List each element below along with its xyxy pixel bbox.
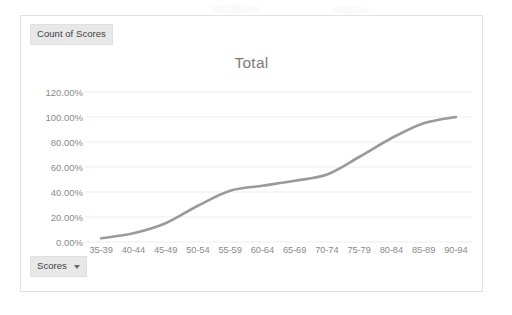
x-axis-tick-label: 60-64 [246,245,278,261]
x-axis-tick-label: 90-94 [440,245,472,261]
y-axis-tick-label: 120.00% [25,87,83,98]
chevron-down-icon[interactable] [74,265,80,269]
x-axis-tick-label: 35-39 [85,245,117,261]
pivot-chart-card: Count of Scores Total 120.00%100.00%80.0… [20,15,483,292]
x-axis-tick-label: 70-74 [311,245,343,261]
y-axis-tick-label: 60.00% [25,162,83,173]
x-axis-tick-label: 55-59 [214,245,246,261]
x-axis: 35-3940-4445-4950-5455-5960-6465-6970-74… [85,245,472,261]
y-axis-tick-label: 100.00% [25,112,83,123]
legend-field-label: Count of Scores [37,28,106,39]
y-axis-tick-label: 80.00% [25,137,83,148]
y-axis-tick-label: 0.00% [25,237,83,248]
plot-svg [85,92,472,242]
series-line-total [101,117,456,238]
y-axis-tick-label: 40.00% [25,187,83,198]
x-axis-tick-label: 50-54 [182,245,214,261]
x-axis-tick-label: 40-44 [117,245,149,261]
gridlines [85,92,472,242]
axis-field-label: Scores [37,259,67,273]
plot-area [85,92,472,242]
legend-field-button[interactable]: Count of Scores [30,24,113,45]
x-axis-tick-label: 65-69 [279,245,311,261]
x-axis-tick-label: 75-79 [343,245,375,261]
x-axis-tick-label: 45-49 [150,245,182,261]
paper-speck [330,6,370,14]
y-axis: 120.00%100.00%80.00%60.00%40.00%20.00%0.… [21,92,83,242]
paper-speck [210,4,260,14]
chart-title: Total [21,54,482,72]
y-axis-tick-label: 20.00% [25,212,83,223]
axis-field-button[interactable]: Scores [30,256,87,277]
x-axis-tick-label: 85-89 [408,245,440,261]
x-axis-tick-label: 80-84 [375,245,407,261]
